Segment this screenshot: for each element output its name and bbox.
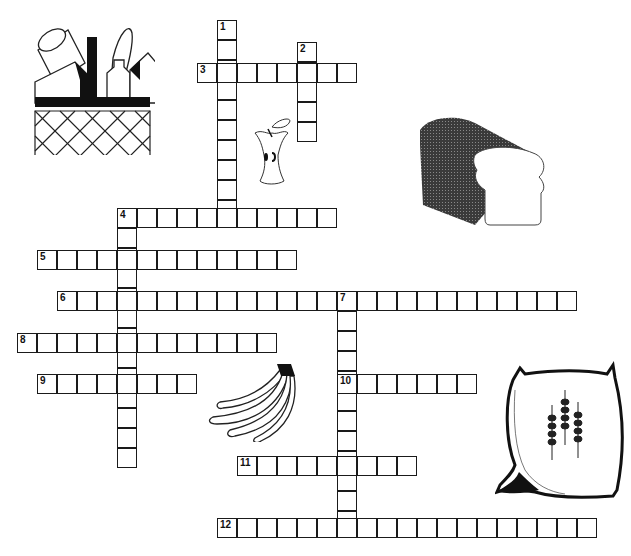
crossword-cell[interactable] [377,456,397,476]
crossword-cell[interactable] [417,291,437,311]
crossword-cell[interactable] [117,308,137,328]
crossword-cell[interactable] [417,374,437,394]
crossword-cell[interactable] [337,491,357,511]
crossword-cell[interactable] [397,374,417,394]
crossword-cell[interactable] [337,311,357,331]
crossword-cell[interactable] [237,63,257,83]
crossword-cell[interactable] [97,250,117,270]
crossword-cell[interactable] [217,40,237,60]
crossword-cell[interactable] [217,180,237,200]
crossword-cell[interactable] [217,140,237,160]
crossword-cell[interactable] [177,208,197,228]
crossword-cell[interactable] [237,291,257,311]
crossword-cell[interactable] [297,122,317,142]
crossword-cell[interactable] [217,160,237,180]
crossword-cell[interactable] [197,208,217,228]
crossword-cell[interactable] [97,374,117,394]
crossword-cell[interactable] [397,456,417,476]
crossword-cell[interactable]: 4 [117,208,137,228]
crossword-cell[interactable]: 6 [57,291,77,311]
crossword-cell[interactable] [157,333,177,353]
crossword-cell[interactable]: 10 [337,374,357,394]
crossword-cell[interactable] [237,250,257,270]
crossword-cell[interactable] [417,518,437,538]
crossword-cell[interactable] [237,333,257,353]
crossword-cell[interactable] [397,518,417,538]
crossword-cell[interactable] [257,208,277,228]
crossword-cell[interactable] [317,456,337,476]
crossword-cell[interactable] [237,518,257,538]
crossword-cell[interactable] [77,250,97,270]
crossword-cell[interactable] [277,456,297,476]
crossword-cell[interactable] [257,518,277,538]
crossword-cell[interactable] [117,408,137,428]
crossword-cell[interactable] [77,374,97,394]
crossword-cell[interactable]: 12 [217,518,237,538]
crossword-cell[interactable] [57,374,77,394]
crossword-cell[interactable] [97,333,117,353]
crossword-cell[interactable] [277,208,297,228]
crossword-cell[interactable] [177,250,197,270]
crossword-cell[interactable] [337,391,357,411]
crossword-cell[interactable] [237,208,257,228]
crossword-cell[interactable] [217,291,237,311]
crossword-cell[interactable] [297,82,317,102]
crossword-cell[interactable] [157,374,177,394]
crossword-cell[interactable] [217,120,237,140]
crossword-cell[interactable] [357,291,377,311]
crossword-cell[interactable] [217,250,237,270]
crossword-cell[interactable] [317,518,337,538]
crossword-cell[interactable] [77,333,97,353]
crossword-cell[interactable] [277,250,297,270]
crossword-cell[interactable] [437,374,457,394]
crossword-cell[interactable] [337,456,357,476]
crossword-cell[interactable] [437,518,457,538]
crossword-cell[interactable] [197,291,217,311]
crossword-cell[interactable] [397,291,417,311]
crossword-cell[interactable] [577,518,597,538]
crossword-cell[interactable] [257,250,277,270]
crossword-cell[interactable] [57,333,77,353]
crossword-cell[interactable] [257,291,277,311]
crossword-cell[interactable] [117,250,137,270]
crossword-cell[interactable] [437,291,457,311]
crossword-cell[interactable] [117,268,137,288]
crossword-cell[interactable] [317,63,337,83]
crossword-cell[interactable] [197,250,217,270]
crossword-cell[interactable] [137,333,157,353]
crossword-cell[interactable] [297,208,317,228]
crossword-cell[interactable] [217,333,237,353]
crossword-cell[interactable] [97,291,117,311]
crossword-cell[interactable] [117,428,137,448]
crossword-cell[interactable] [157,291,177,311]
crossword-cell[interactable] [457,518,477,538]
crossword-cell[interactable] [277,63,297,83]
crossword-cell[interactable] [317,291,337,311]
crossword-cell[interactable] [297,291,317,311]
crossword-cell[interactable] [157,208,177,228]
crossword-cell[interactable] [257,333,277,353]
crossword-cell[interactable] [257,63,277,83]
crossword-cell[interactable] [337,331,357,351]
crossword-cell[interactable] [57,250,77,270]
crossword-cell[interactable] [117,291,137,311]
crossword-cell[interactable] [357,456,377,476]
crossword-cell[interactable] [297,63,317,83]
crossword-cell[interactable] [217,63,237,83]
crossword-cell[interactable] [457,291,477,311]
crossword-cell[interactable] [557,291,577,311]
crossword-cell[interactable] [497,291,517,311]
crossword-cell[interactable] [177,291,197,311]
crossword-cell[interactable] [137,250,157,270]
crossword-cell[interactable] [137,208,157,228]
crossword-cell[interactable]: 1 [217,20,237,40]
crossword-cell[interactable] [317,208,337,228]
crossword-cell[interactable] [357,374,377,394]
crossword-cell[interactable] [377,518,397,538]
crossword-cell[interactable] [217,208,237,228]
crossword-cell[interactable] [277,291,297,311]
crossword-cell[interactable] [337,411,357,431]
crossword-cell[interactable] [337,431,357,451]
crossword-cell[interactable] [277,518,297,538]
crossword-cell[interactable]: 5 [37,250,57,270]
